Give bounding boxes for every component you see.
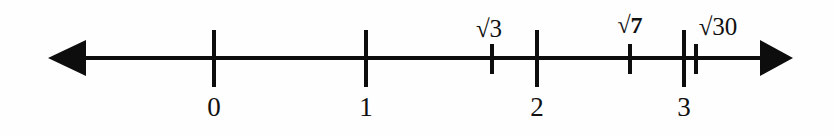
- tick-minor-sqrt7: [628, 44, 632, 74]
- axis-label-sqrt30: √30: [699, 14, 738, 39]
- axis-label-0: 0: [207, 94, 221, 121]
- axis-label-sqrt7: √7: [617, 13, 642, 37]
- tick-major-2: [535, 30, 539, 87]
- number-line-axis: [80, 56, 766, 60]
- right-arrowhead-icon: [760, 40, 793, 76]
- tick-minor-sqrt30: [694, 44, 698, 74]
- axis-label-1: 1: [359, 94, 373, 121]
- tick-minor-sqrt3: [490, 44, 494, 74]
- axis-label-sqrt3: √3: [476, 16, 502, 41]
- tick-major-0: [212, 30, 216, 87]
- tick-major-1: [364, 30, 368, 87]
- tick-major-3: [682, 30, 686, 87]
- axis-label-2: 2: [530, 94, 544, 121]
- number-line-figure: 0 1 2 3 √3 √7 √30: [0, 0, 834, 136]
- axis-label-3: 3: [677, 94, 691, 121]
- left-arrowhead-icon: [48, 40, 86, 76]
